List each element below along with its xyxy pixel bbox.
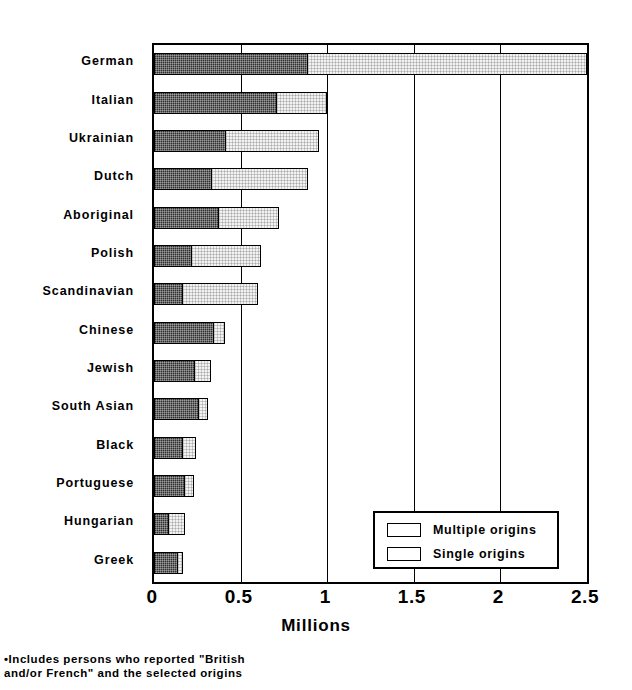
bar-segment-multiple-origins (194, 360, 211, 382)
x-tick-label: 2 (493, 586, 504, 608)
bar-row (154, 207, 587, 229)
x-tick-label: 1.5 (398, 586, 426, 608)
x-tick-label: 1 (320, 586, 331, 608)
bar-segment-single-origins (154, 53, 308, 75)
bar-row (154, 130, 587, 152)
bar-segment-multiple-origins (168, 513, 185, 535)
category-label: Jewish (0, 361, 134, 375)
bar-segment-multiple-origins (182, 283, 258, 305)
footnote-line-1: •Includes persons who reported "British (4, 652, 334, 666)
bar-segment-multiple-origins (218, 207, 278, 229)
category-axis-labels: GermanItalianUkrainianDutchAboriginalPol… (0, 43, 142, 580)
bar-segment-single-origins (154, 437, 183, 459)
category-label: Ukrainian (0, 131, 134, 145)
x-tick-label: 0 (146, 586, 157, 608)
gridline (414, 45, 415, 582)
plot-area: Multiple origins Single origins (152, 43, 589, 584)
bar-segment-single-origins (154, 130, 227, 152)
category-label: Chinese (0, 323, 134, 337)
bar-segment-single-origins (154, 207, 220, 229)
category-label: Aboriginal (0, 208, 134, 222)
bar-segment-single-origins (154, 168, 213, 190)
bar-segment-multiple-origins (225, 130, 318, 152)
bar-segment-single-origins (154, 475, 185, 497)
bar-segment-single-origins (154, 360, 196, 382)
bar-segment-multiple-origins (177, 552, 184, 574)
bar-row (154, 398, 587, 420)
bar-segment-multiple-origins (182, 437, 196, 459)
bar-row (154, 245, 587, 267)
category-label: Greek (0, 553, 134, 567)
category-label: Hungarian (0, 514, 134, 528)
bar-segment-multiple-origins (213, 322, 225, 344)
legend-swatch-single-origins (387, 547, 421, 561)
legend-item-single-origins: Single origins (387, 543, 557, 565)
gridline (500, 45, 501, 582)
bar-segment-multiple-origins (198, 398, 208, 420)
chart-legend: Multiple origins Single origins (373, 511, 559, 569)
bar-row (154, 53, 587, 75)
bar-segment-single-origins (154, 322, 215, 344)
category-label: Dutch (0, 169, 134, 183)
bar-segment-single-origins (154, 92, 277, 114)
bar-row (154, 92, 587, 114)
bar-segment-multiple-origins (307, 53, 587, 75)
legend-swatch-multiple-origins (387, 523, 421, 537)
bar-segment-single-origins (154, 283, 183, 305)
category-label: Black (0, 438, 134, 452)
category-label: Italian (0, 93, 134, 107)
bar-segment-multiple-origins (211, 168, 308, 190)
legend-item-multiple-origins: Multiple origins (387, 519, 557, 541)
legend-label-multiple-origins: Multiple origins (433, 523, 537, 537)
bar-segment-multiple-origins (184, 475, 194, 497)
category-label: Polish (0, 246, 134, 260)
footnote-line-2: and/or French" and the selected origins (4, 666, 334, 680)
gridline (241, 45, 242, 582)
bar-chart-figure: GermanItalianUkrainianDutchAboriginalPol… (0, 0, 632, 690)
bar-segment-single-origins (154, 245, 192, 267)
x-axis-title: Millions (0, 616, 632, 636)
bar-row (154, 475, 587, 497)
footnote: •Includes persons who reported "British … (4, 652, 334, 680)
bar-segment-single-origins (154, 398, 199, 420)
bar-row (154, 322, 587, 344)
legend-label-single-origins: Single origins (433, 547, 525, 561)
gridline (327, 45, 328, 582)
bar-row (154, 437, 587, 459)
x-tick-label: 2.5 (571, 586, 599, 608)
bar-segment-multiple-origins (276, 92, 328, 114)
category-label: South Asian (0, 399, 134, 413)
category-label: Portuguese (0, 476, 134, 490)
bar-row (154, 283, 587, 305)
category-label: German (0, 54, 134, 68)
bar-segment-multiple-origins (191, 245, 262, 267)
x-axis-ticks: 00.511.522.5 (0, 586, 632, 612)
bar-segment-single-origins (154, 552, 178, 574)
x-tick-label: 0.5 (225, 586, 253, 608)
category-label: Scandinavian (0, 284, 134, 298)
bar-row (154, 360, 587, 382)
bar-row (154, 168, 587, 190)
